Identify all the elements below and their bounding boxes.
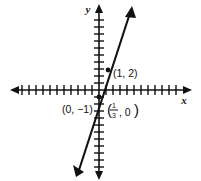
y-axis-label: y bbox=[84, 3, 91, 15]
label-fraction-close-paren: ) bbox=[134, 101, 139, 118]
label-fraction-numerator: 1 bbox=[112, 102, 116, 109]
line-lower-arrowhead bbox=[73, 165, 84, 177]
point-marker-0-neg1 bbox=[97, 95, 102, 100]
x-axis-left-arrowhead bbox=[10, 86, 19, 94]
y-axis-down-arrowhead bbox=[95, 171, 103, 180]
coordinate-plane-figure: y x (1, 2) (0, −1) ( 1 3 , 0 ) bbox=[0, 0, 201, 181]
axis-group bbox=[10, 4, 192, 180]
label-point-one-third-0: ( 1 3 , 0 ) bbox=[107, 101, 139, 119]
graph-canvas: y x (1, 2) (0, −1) ( 1 3 , 0 ) bbox=[0, 0, 201, 181]
label-fraction-suffix: , 0 bbox=[119, 106, 131, 118]
label-point-1-2: (1, 2) bbox=[113, 67, 138, 79]
x-axis-right-arrowhead bbox=[183, 86, 192, 94]
x-axis-label: x bbox=[180, 94, 187, 106]
y-axis-up-arrowhead bbox=[95, 4, 103, 13]
point-marker-1-2 bbox=[106, 68, 111, 73]
label-fraction-denominator: 3 bbox=[112, 112, 116, 119]
label-point-0-neg1: (0, −1) bbox=[62, 103, 93, 115]
line-upper-arrowhead bbox=[125, 6, 136, 18]
plotted-line bbox=[79, 13, 130, 170]
